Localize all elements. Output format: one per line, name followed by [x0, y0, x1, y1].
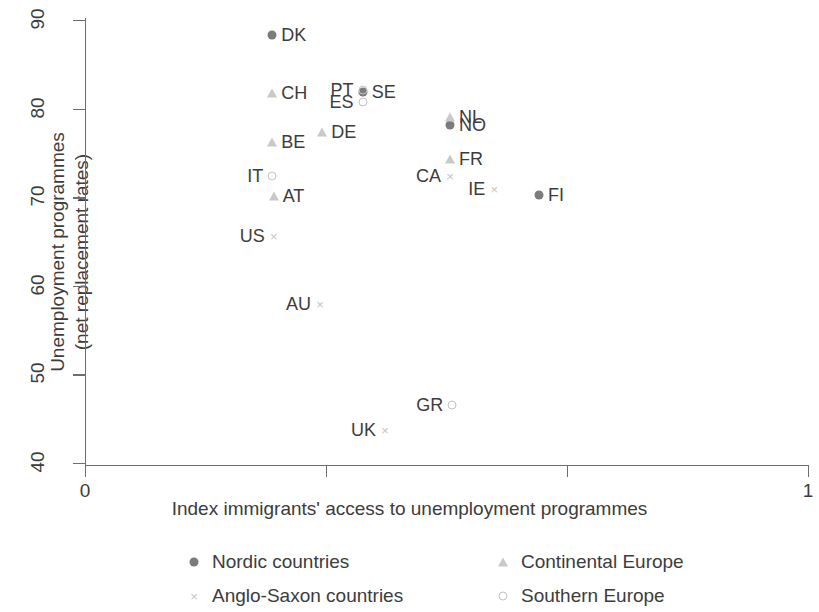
triangle-marker-icon: [269, 192, 279, 201]
y-axis-tick: [73, 109, 85, 110]
legend-marker: [495, 588, 511, 604]
y-axis-tick: [73, 463, 85, 464]
data-point-label: ES: [330, 93, 354, 111]
cross-marker-icon: [380, 425, 391, 436]
legend-label: Nordic countries: [212, 551, 349, 573]
legend-item: Anglo-Saxon countries: [186, 585, 403, 607]
data-point-label: NL: [459, 108, 482, 126]
data-point-label: SE: [372, 83, 396, 101]
data-point-label: UK: [351, 421, 376, 439]
data-point-label: US: [240, 227, 265, 245]
data-point-label: FR: [459, 150, 483, 168]
y-axis-tick: [73, 20, 85, 21]
y-axis-tick: [73, 197, 85, 198]
x-axis-tick: [808, 465, 809, 477]
x-axis-line: [85, 465, 809, 466]
y-axis-tick: [73, 286, 85, 287]
filled-circle-marker-icon: [446, 121, 455, 130]
data-point-label: DK: [281, 26, 306, 44]
legend-label: Anglo-Saxon countries: [212, 585, 403, 607]
legend-marker: [495, 554, 511, 570]
x-axis-tick: [567, 465, 568, 477]
open-circle-marker-icon: [358, 85, 367, 94]
x-axis-tick: [85, 465, 86, 477]
triangle-marker-icon: [445, 155, 455, 164]
triangle-marker-icon: [267, 138, 277, 147]
y-axis-tick: [73, 374, 85, 375]
scatter-plot-figure: Unemployment programmes (net replacement…: [0, 0, 819, 612]
legend-marker: [186, 588, 202, 604]
cross-marker-icon: [189, 591, 200, 602]
open-circle-marker-icon: [499, 592, 508, 601]
cross-marker-icon: [268, 231, 279, 242]
legend-item: Southern Europe: [495, 585, 665, 607]
data-point-label: DE: [331, 123, 356, 141]
y-axis-tick-label: 80: [27, 78, 49, 138]
data-point-label: CA: [416, 167, 441, 185]
cross-marker-icon: [314, 298, 325, 309]
chart-legend: Nordic countriesContinental EuropeAnglo-…: [0, 545, 819, 612]
legend-item: Nordic countries: [186, 551, 349, 573]
data-point-label: IE: [468, 180, 485, 198]
filled-circle-marker-icon: [535, 191, 544, 200]
triangle-marker-icon: [317, 127, 327, 136]
open-circle-marker-icon: [448, 401, 457, 410]
cross-marker-icon: [489, 184, 500, 195]
data-point-label: BE: [281, 133, 305, 151]
filled-circle-marker-icon: [190, 558, 199, 567]
legend-label: Continental Europe: [521, 551, 684, 573]
data-point-label: FI: [548, 186, 564, 204]
triangle-marker-icon: [267, 88, 277, 97]
data-point-label: AU: [286, 295, 311, 313]
y-axis-tick-label: 50: [27, 343, 49, 403]
triangle-marker-icon: [445, 112, 455, 121]
y-axis-line: [85, 18, 86, 466]
cross-marker-icon: [445, 170, 456, 181]
y-axis-tick-label: 70: [27, 166, 49, 226]
legend-label: Southern Europe: [521, 585, 665, 607]
data-point-label: CH: [281, 84, 307, 102]
y-axis-tick-label: 40: [27, 432, 49, 492]
data-point-label: GR: [416, 396, 443, 414]
legend-marker: [186, 554, 202, 570]
y-axis-tick-label: 60: [27, 255, 49, 315]
data-point-label: IT: [247, 167, 263, 185]
open-circle-marker-icon: [358, 97, 367, 106]
x-axis-title: Index immigrants' access to unemployment…: [0, 498, 819, 520]
y-axis-title: Unemployment programmes (net replacement…: [46, 42, 94, 462]
y-axis-tick-label: 90: [27, 0, 49, 49]
filled-circle-marker-icon: [268, 31, 277, 40]
triangle-marker-icon: [498, 558, 508, 567]
data-point-label: AT: [283, 187, 305, 205]
x-axis-tick: [326, 465, 327, 477]
open-circle-marker-icon: [268, 171, 277, 180]
legend-item: Continental Europe: [495, 551, 684, 573]
